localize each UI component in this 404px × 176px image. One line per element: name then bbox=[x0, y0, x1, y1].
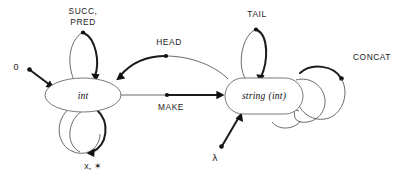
edge-times-star-loop bbox=[59, 108, 105, 157]
edge-marker-dot bbox=[254, 27, 258, 31]
edge-marker-dot bbox=[219, 144, 224, 149]
node-int-label: int bbox=[78, 90, 89, 101]
node-string-label-arg: (int) bbox=[269, 90, 287, 102]
node-int[interactable]: int bbox=[45, 78, 121, 112]
label-tail: TAIL bbox=[247, 9, 266, 19]
edge-marker-dot bbox=[164, 54, 168, 58]
edge-make bbox=[120, 91, 225, 100]
diagram-svg: SUCC, PRED x, ✶ 0 HEAD bbox=[0, 0, 404, 176]
diagram-canvas: SUCC, PRED x, ✶ 0 HEAD bbox=[0, 0, 404, 176]
edge-head bbox=[116, 54, 228, 80]
edge-marker-dot bbox=[27, 67, 32, 72]
edge-lambda-constant bbox=[219, 112, 243, 149]
label-make: MAKE bbox=[158, 102, 184, 112]
edge-marker-dot bbox=[81, 30, 85, 34]
edge-succ-pred-loop bbox=[70, 30, 100, 81]
edge-zero-constant bbox=[27, 67, 54, 88]
node-string-label-main: string bbox=[242, 90, 266, 101]
label-pred: PRED bbox=[70, 17, 95, 27]
edge-tail-loop bbox=[241, 27, 266, 82]
edge-marker-dot bbox=[339, 76, 344, 81]
edge-marker-dot bbox=[165, 93, 169, 97]
label-head: HEAD bbox=[156, 37, 181, 47]
label-zero: 0 bbox=[13, 62, 18, 72]
label-times-star: x, ✶ bbox=[84, 161, 102, 171]
node-string-label: string(int) bbox=[242, 90, 286, 102]
node-string[interactable]: string(int) bbox=[225, 78, 303, 114]
label-succ: SUCC, bbox=[69, 6, 98, 16]
label-lambda: λ bbox=[212, 153, 218, 163]
label-concat: CONCAT bbox=[353, 52, 391, 62]
